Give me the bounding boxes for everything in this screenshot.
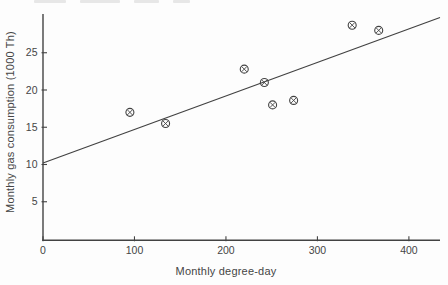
scatter-plot-figure: 0100200300400510152025 Monthly degree-da…	[0, 0, 448, 285]
y-tick-label: 5	[32, 195, 38, 207]
x-tick-label: 200	[217, 244, 235, 256]
x-tick-label: 100	[126, 244, 144, 256]
x-axis-title: Monthly degree-day	[176, 265, 277, 277]
regression-line	[43, 18, 440, 164]
y-tick-label: 20	[26, 84, 38, 96]
y-axis-title: Monthly gas consumption (1000 Th)	[4, 31, 16, 213]
x-tick-label: 300	[309, 244, 327, 256]
x-tick-label: 400	[400, 244, 418, 256]
y-tick-label: 25	[26, 46, 38, 58]
y-tick-label: 15	[26, 121, 38, 133]
plot-canvas: 0100200300400510152025	[0, 0, 448, 285]
y-tick-label: 10	[26, 158, 38, 170]
x-tick-label: 0	[40, 244, 46, 256]
